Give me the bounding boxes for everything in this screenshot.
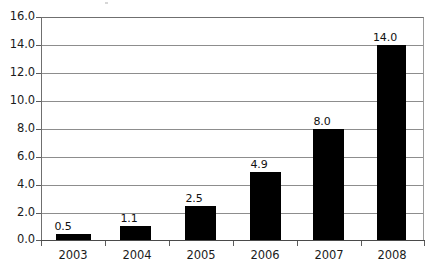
scan-artifact-speck bbox=[105, 2, 108, 4]
x-axis-label-2007: 2007 bbox=[297, 249, 361, 261]
gridline-14 bbox=[42, 45, 423, 46]
bar-value-2006: 4.9 bbox=[234, 159, 284, 170]
bar-2005[interactable] bbox=[185, 206, 216, 241]
gridline-4 bbox=[42, 185, 423, 186]
gridline-12 bbox=[42, 73, 423, 74]
gridline-2 bbox=[42, 213, 423, 214]
y-tick-8 bbox=[36, 129, 41, 130]
x-tick-2 bbox=[169, 241, 170, 246]
bar-value-2008: 14.0 bbox=[360, 32, 410, 43]
bar-value-2003: 0.5 bbox=[38, 221, 88, 232]
y-tick-14 bbox=[36, 45, 41, 46]
y-axis-label-0: 0.0 bbox=[2, 234, 35, 245]
bar-2004[interactable] bbox=[120, 226, 151, 241]
x-axis-label-2006: 2006 bbox=[233, 249, 297, 261]
bar-value-2007: 8.0 bbox=[297, 116, 347, 127]
bar-value-2005: 2.5 bbox=[169, 193, 219, 204]
plot-area bbox=[41, 17, 424, 241]
x-tick-5 bbox=[361, 241, 362, 246]
y-axis-label-4: 4.0 bbox=[2, 179, 35, 190]
x-axis-label-2005: 2005 bbox=[169, 249, 233, 261]
x-tick-1 bbox=[105, 241, 106, 246]
gridline-10 bbox=[42, 101, 423, 102]
y-tick-6 bbox=[36, 157, 41, 158]
bar-2008[interactable] bbox=[377, 45, 406, 241]
gridline-6 bbox=[42, 157, 423, 158]
bar-chart: 0.5 1.1 2.5 4.9 8.0 14.0 16.0 14.0 12.0 … bbox=[0, 0, 436, 275]
y-axis-label-6: 6.0 bbox=[2, 151, 35, 162]
y-axis-label-8: 8.0 bbox=[2, 123, 35, 134]
y-axis-label-2: 2.0 bbox=[2, 207, 35, 218]
bar-2007[interactable] bbox=[313, 129, 344, 241]
y-tick-16 bbox=[36, 17, 41, 18]
y-tick-10 bbox=[36, 101, 41, 102]
y-tick-2 bbox=[36, 213, 41, 214]
x-tick-0 bbox=[41, 241, 42, 246]
bar-2006[interactable] bbox=[250, 172, 281, 241]
x-axis-label-2003: 2003 bbox=[41, 249, 105, 261]
x-tick-6 bbox=[424, 241, 425, 246]
y-axis-label-16: 16.0 bbox=[2, 11, 35, 22]
x-tick-3 bbox=[233, 241, 234, 246]
y-tick-12 bbox=[36, 73, 41, 74]
x-axis-label-2004: 2004 bbox=[105, 249, 169, 261]
y-axis-label-10: 10.0 bbox=[2, 95, 35, 106]
x-axis-label-2008: 2008 bbox=[360, 249, 424, 261]
y-axis-label-12: 12.0 bbox=[2, 67, 35, 78]
y-axis-label-14: 14.0 bbox=[2, 39, 35, 50]
x-tick-4 bbox=[297, 241, 298, 246]
y-tick-4 bbox=[36, 185, 41, 186]
gridline-8 bbox=[42, 129, 423, 130]
bar-value-2004: 1.1 bbox=[104, 213, 154, 224]
